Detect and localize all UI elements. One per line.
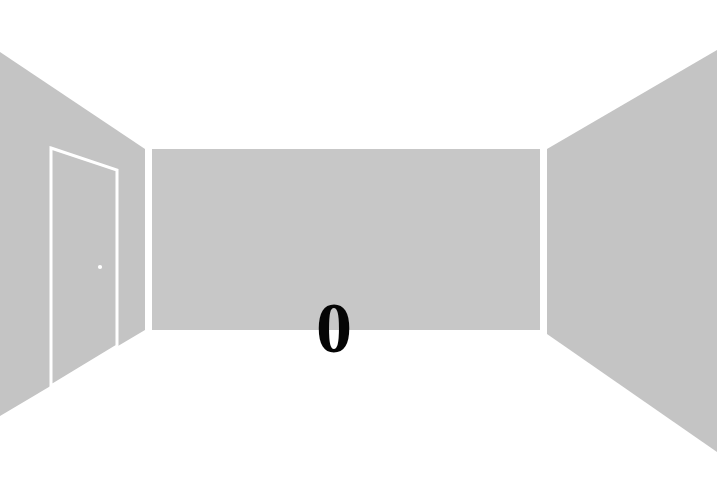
room-perspective-drawing xyxy=(0,0,717,486)
floor-marking-letter: 0 xyxy=(316,292,352,364)
door-knob-icon[interactable] xyxy=(98,265,102,269)
door-panel[interactable] xyxy=(51,148,117,386)
room-scene: 0 xyxy=(0,0,717,486)
